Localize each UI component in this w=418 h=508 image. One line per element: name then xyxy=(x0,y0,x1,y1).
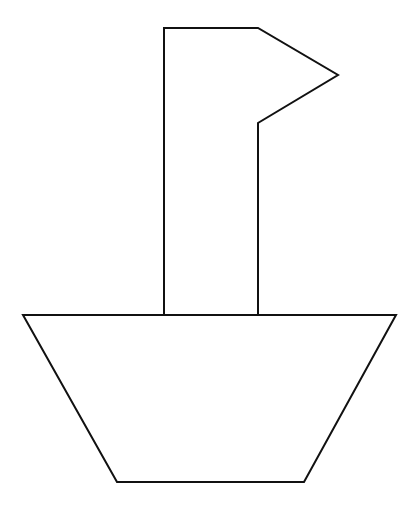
boat-drawing xyxy=(0,0,418,508)
hull-shape xyxy=(23,315,396,482)
boat-svg xyxy=(0,0,418,508)
flag-mast-shape xyxy=(164,28,338,315)
